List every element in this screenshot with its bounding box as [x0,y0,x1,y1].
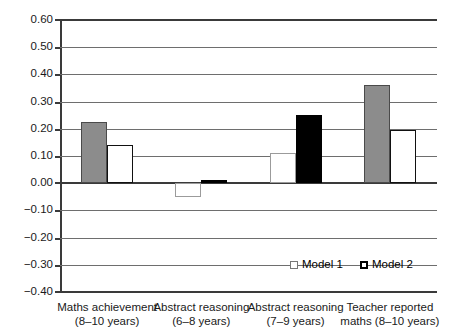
y-axis-tick-label: −0.10 [1,205,53,217]
x-axis-category-label: Abstract reasoning(7–9 years) [245,300,347,328]
bar-model-1-cat1 [81,122,107,183]
bar-model-2-cat2 [201,180,227,183]
plot-area: 0.600.500.400.300.200.100.00−0.10−0.20−0… [60,20,437,292]
bar-model-1-cat4 [364,85,390,183]
y-axis-tick [55,102,60,104]
gridline: 0.60 [60,19,437,21]
y-axis-tick [55,19,60,21]
chart-legend: Model 1Model 2 [290,259,413,271]
y-axis-tick-label: 0.40 [1,69,53,81]
y-axis-tick [55,47,60,49]
x-label-line1: Maths achievement [57,301,157,313]
y-axis-tick [55,129,60,131]
gridline: −0.10 [60,210,437,211]
x-axis-category-label: Teacher reportedmaths (8–10 years) [339,300,441,328]
x-axis-category-label: Maths achievement(8–10 years) [56,300,158,328]
legend-label: Model 2 [372,259,413,271]
legend-swatch-icon [290,261,298,269]
y-axis-tick-label: 0.50 [1,41,53,53]
y-axis-tick-label: −0.40 [1,286,53,298]
bar-model-2-cat1 [107,145,133,183]
bar-model-1-cat3 [270,153,296,183]
y-axis-tick-label: −0.30 [1,259,53,271]
legend-entry-2: Model 2 [360,259,413,271]
y-axis-tick [55,210,60,212]
y-axis-tick [55,182,60,184]
gridline: 0.40 [60,74,437,75]
y-axis-tick-label: 0.30 [1,96,53,108]
y-axis-tick [55,156,60,158]
gridline: −0.20 [60,238,437,239]
x-label-line1: Abstract reasoning [248,301,344,313]
x-axis-category-label: Abstract reasoning(6–8 years) [150,300,252,328]
y-axis-tick-label: 0.00 [1,177,53,189]
bar-model-2-cat3 [296,115,322,183]
x-label-line2: maths (8–10 years) [339,314,441,328]
gridline: 0.50 [60,47,437,48]
x-label-line1: Abstract reasoning [153,301,249,313]
y-axis-tick [55,265,60,267]
x-label-line1: Teacher reported [346,301,433,313]
bar-model-2-cat4 [390,130,416,183]
legend-entry-1: Model 1 [290,259,343,271]
x-label-line2: (6–8 years) [150,314,252,328]
y-axis-tick-label: 0.60 [1,14,53,26]
bar-model-1-cat2 [175,183,201,197]
x-label-line2: (8–10 years) [56,314,158,328]
y-axis-tick-label: −0.20 [1,232,53,244]
bar-chart: 0.600.500.400.300.200.100.00−0.10−0.20−0… [0,0,460,336]
legend-label: Model 1 [302,259,343,271]
y-axis-tick-label: 0.20 [1,123,53,135]
y-axis-tick [55,291,60,293]
gridline: −0.40 [60,291,437,293]
y-axis-tick [55,74,60,76]
y-axis-tick [55,238,60,240]
legend-swatch-icon [360,261,368,269]
x-label-line2: (7–9 years) [245,314,347,328]
y-axis-tick-label: 0.10 [1,150,53,162]
